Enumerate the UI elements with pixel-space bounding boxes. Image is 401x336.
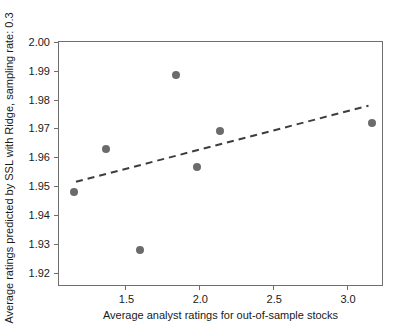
scatter-plot-figure: Average ratings predicted by SSL with Ri… — [0, 0, 401, 336]
trendline — [59, 42, 384, 287]
x-tick-label: 1.5 — [119, 292, 134, 306]
y-tick-label: 1.92 — [29, 266, 50, 281]
trendline-segment — [76, 106, 369, 182]
y-tick-label: 1.93 — [29, 237, 50, 252]
y-tick-label: 1.94 — [29, 208, 50, 223]
y-tick-label: 1.95 — [29, 179, 50, 194]
y-tick-label: 2.00 — [29, 35, 50, 50]
y-axis-title: Average ratings predicted by SSL with Ri… — [3, 12, 15, 323]
data-point-marker — [102, 145, 110, 153]
x-axis-title: Average analyst ratings for out-of-sampl… — [58, 309, 383, 321]
y-tick-label: 1.98 — [29, 93, 50, 108]
data-point-marker — [368, 119, 376, 127]
data-point-marker — [136, 246, 144, 254]
y-axis-title-container: Average ratings predicted by SSL with Ri… — [0, 0, 18, 336]
y-tick-label: 1.96 — [29, 150, 50, 165]
x-tick-label: 2.5 — [267, 292, 282, 306]
data-layer — [59, 42, 382, 285]
y-tick-label: 1.99 — [29, 64, 50, 79]
x-tick-label: 3.0 — [340, 292, 355, 306]
y-tick-label: 1.97 — [29, 121, 50, 136]
x-tick-label: 2.0 — [193, 292, 208, 306]
plot-area: 1.921.931.941.951.961.971.981.992.00 1.5… — [58, 41, 383, 286]
data-point-marker — [70, 188, 78, 196]
